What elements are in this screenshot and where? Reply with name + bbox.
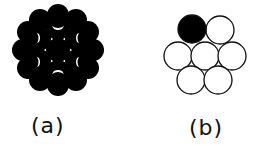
cluster-b bbox=[164, 15, 246, 94]
label-a: (a) bbox=[31, 113, 65, 138]
circle-bottom-right bbox=[204, 66, 232, 94]
circle-right bbox=[218, 42, 246, 70]
label-b: (b) bbox=[189, 115, 223, 140]
circle-top-left-filled bbox=[178, 15, 206, 43]
cluster-a bbox=[12, 4, 104, 96]
circle-top-right bbox=[206, 16, 234, 44]
circle-bottom-left bbox=[177, 66, 205, 94]
